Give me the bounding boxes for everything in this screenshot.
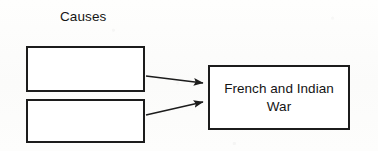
arrow-cause-2-to-effect [146,102,203,115]
arrow-cause-1-to-effect [146,76,203,83]
effect-box-french-and-indian-war[interactable]: French and Indian War [208,65,350,130]
cause-box-2-label [28,103,40,118]
effect-box-text: French and Indian War [218,80,340,115]
effect-box-line-1: French and Indian [224,81,334,96]
causes-label: Causes [60,9,106,24]
cause-box-2[interactable] [26,99,145,143]
cause-box-1-label [28,50,40,65]
cause-box-1[interactable] [26,46,145,92]
diagram-canvas: Causes French and Indian War [0,0,378,151]
effect-box-line-2: War [267,99,291,114]
